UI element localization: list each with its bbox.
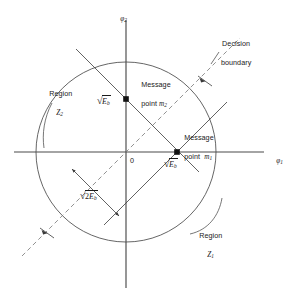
sqrt-2eb-sub: b <box>94 194 97 200</box>
region-z2-line1: Region <box>49 89 72 98</box>
sqrt-eb-m1-label: √Eb <box>164 158 178 169</box>
origin-label: 0 <box>130 156 134 166</box>
decision-boundary-line1: Decision <box>222 39 250 48</box>
region-z2-symbol-sub: 2 <box>60 110 63 116</box>
m1-label-line2: point <box>184 152 200 161</box>
message-point-m2-label: Message point m2 <box>133 70 171 119</box>
m2-label-line2: point <box>141 99 157 108</box>
sqrt-eb-m2-sub: b <box>107 99 110 105</box>
m2-label-line1: Message <box>141 80 171 89</box>
y-axis-label: φ2 <box>112 4 127 34</box>
figure-canvas: φ2 φ1 0 Decision boundary Message point … <box>0 0 292 298</box>
region-z1-line1: Region <box>199 231 222 240</box>
x-axis-label: φ1 <box>268 146 283 176</box>
sqrt-eb-m2-label: √Eb <box>97 95 111 106</box>
region-z1-symbol-sub: 1 <box>211 252 214 258</box>
region-z1-label: Region Z1 <box>191 221 222 270</box>
sqrt-2eb-label: √2Eb <box>80 190 98 201</box>
message-point-m2-marker <box>123 96 129 102</box>
decision-boundary-line2: boundary <box>221 58 251 67</box>
message-point-m1-label: Message point m1 <box>176 123 214 172</box>
decision-boundary-label: Decision boundary <box>199 29 265 77</box>
region-z2-label: Region Z2 <box>41 79 72 128</box>
m1-symbol-sub: 1 <box>209 154 212 160</box>
m1-label-line1: Message <box>184 133 214 142</box>
sqrt-eb-m1-sub: b <box>174 162 177 168</box>
m2-symbol-sub: 2 <box>164 101 167 107</box>
